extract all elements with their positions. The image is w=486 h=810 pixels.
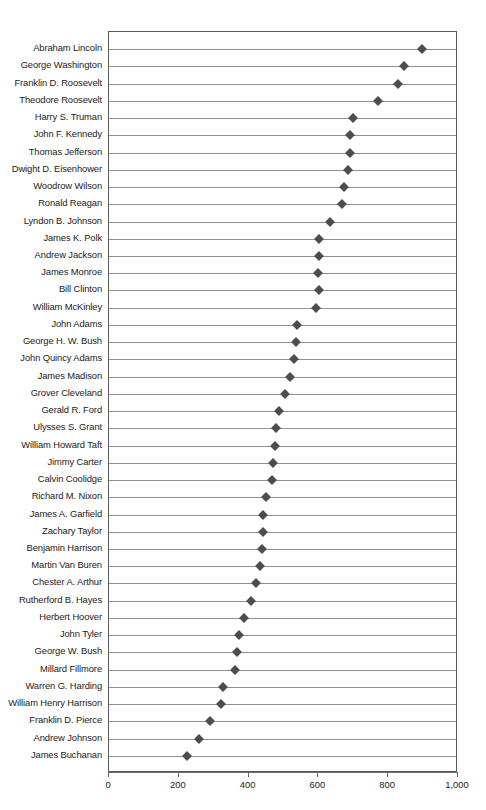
x-axis-tick: [178, 772, 179, 777]
y-axis-label: Grover Cleveland: [0, 388, 102, 398]
gridline: [109, 187, 456, 188]
data-point-marker[interactable]: [239, 613, 249, 623]
data-point-marker[interactable]: [258, 510, 268, 520]
presidents-ranking-scatter-chart: Abraham LincolnGeorge WashingtonFranklin…: [0, 0, 486, 810]
data-point-marker[interactable]: [216, 699, 226, 709]
data-point-marker[interactable]: [258, 527, 268, 537]
data-point-marker[interactable]: [268, 458, 278, 468]
data-point-marker[interactable]: [205, 716, 215, 726]
gridline: [109, 480, 456, 481]
gridline: [109, 635, 456, 636]
data-point-marker[interactable]: [182, 751, 192, 761]
data-point-marker[interactable]: [218, 682, 228, 692]
data-point-marker[interactable]: [314, 286, 324, 296]
y-axis-label: Herbert Hoover: [0, 612, 102, 622]
x-axis-tick-label: 800: [379, 779, 395, 790]
data-point-marker[interactable]: [271, 423, 281, 433]
x-axis-tick-label: 200: [170, 779, 186, 790]
data-point-marker[interactable]: [311, 303, 321, 313]
data-point-marker[interactable]: [261, 492, 271, 502]
data-point-marker[interactable]: [345, 130, 355, 140]
gridline: [109, 428, 456, 429]
data-point-marker[interactable]: [393, 79, 403, 89]
y-axis-label: Thomas Jefferson: [0, 147, 102, 157]
data-point-marker[interactable]: [280, 389, 290, 399]
y-axis-label: Lyndon B. Johnson: [0, 216, 102, 226]
y-axis-label: Millard Fillmore: [0, 664, 102, 674]
data-point-marker[interactable]: [399, 62, 409, 72]
data-point-marker[interactable]: [234, 630, 244, 640]
y-axis-label: William McKinley: [0, 302, 102, 312]
gridline: [109, 84, 456, 85]
data-point-marker[interactable]: [337, 199, 347, 209]
gridline: [109, 273, 456, 274]
data-point-marker[interactable]: [291, 337, 301, 347]
data-point-marker[interactable]: [292, 320, 302, 330]
x-axis-tick-label: 0: [105, 779, 110, 790]
gridline: [109, 704, 456, 705]
gridline: [109, 325, 456, 326]
y-axis-label: George Washington: [0, 60, 102, 70]
gridline: [109, 566, 456, 567]
gridline: [109, 153, 456, 154]
data-point-marker[interactable]: [339, 182, 349, 192]
x-axis-tick-label: 400: [240, 779, 256, 790]
data-point-marker[interactable]: [373, 96, 383, 106]
data-point-marker[interactable]: [251, 578, 261, 588]
gridline: [109, 49, 456, 50]
y-axis-label: John Tyler: [0, 629, 102, 639]
data-point-marker[interactable]: [194, 734, 204, 744]
gridline: [109, 583, 456, 584]
gridline: [109, 101, 456, 102]
y-axis-label: Ulysses S. Grant: [0, 422, 102, 432]
y-axis-label: Andrew Johnson: [0, 733, 102, 743]
y-axis-label: William Howard Taft: [0, 440, 102, 450]
gridline: [109, 756, 456, 757]
data-point-marker[interactable]: [348, 113, 358, 123]
y-axis-label: Franklin D. Roosevelt: [0, 78, 102, 88]
gridline: [109, 342, 456, 343]
data-point-marker[interactable]: [257, 544, 267, 554]
data-point-marker[interactable]: [314, 234, 324, 244]
y-axis-label: George W. Bush: [0, 646, 102, 656]
x-axis-tick: [317, 772, 318, 777]
gridline: [109, 463, 456, 464]
gridline: [109, 515, 456, 516]
data-point-marker[interactable]: [274, 406, 284, 416]
data-point-marker[interactable]: [270, 441, 280, 451]
y-axis-label: Ronald Reagan: [0, 198, 102, 208]
y-axis-label: Calvin Coolidge: [0, 474, 102, 484]
y-axis-label: Harry S. Truman: [0, 112, 102, 122]
y-axis-label: John F. Kennedy: [0, 129, 102, 139]
data-point-marker[interactable]: [325, 217, 335, 227]
x-axis-tick: [108, 772, 109, 777]
gridline: [109, 618, 456, 619]
x-axis-tick-label: 600: [310, 779, 326, 790]
data-point-marker[interactable]: [267, 475, 277, 485]
data-point-marker[interactable]: [417, 44, 427, 54]
data-point-marker[interactable]: [343, 165, 353, 175]
gridline: [109, 532, 456, 533]
gridline: [109, 652, 456, 653]
y-axis-label: Warren G. Harding: [0, 681, 102, 691]
data-point-marker[interactable]: [289, 354, 299, 364]
data-point-marker[interactable]: [313, 268, 323, 278]
data-point-marker[interactable]: [345, 148, 355, 158]
y-axis-label: James K. Polk: [0, 233, 102, 243]
y-axis-label: Rutherford B. Hayes: [0, 595, 102, 605]
y-axis-label: Theodore Roosevelt: [0, 95, 102, 105]
data-point-marker[interactable]: [232, 647, 242, 657]
data-point-marker[interactable]: [230, 665, 240, 675]
data-point-marker[interactable]: [255, 561, 265, 571]
x-axis-ticks: 02004006008001,000: [108, 772, 457, 802]
data-point-marker[interactable]: [314, 251, 324, 261]
gridline: [109, 170, 456, 171]
y-axis-label: James Monroe: [0, 267, 102, 277]
data-point-marker[interactable]: [285, 372, 295, 382]
y-axis-label: Andrew Jackson: [0, 250, 102, 260]
data-point-marker[interactable]: [246, 596, 256, 606]
y-axis-label: James Madison: [0, 371, 102, 381]
gridline: [109, 549, 456, 550]
x-axis-tick-label: 1,000: [445, 779, 468, 790]
gridline: [109, 446, 456, 447]
